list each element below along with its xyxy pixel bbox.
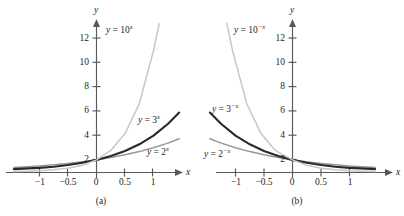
x-axis-arrow-b	[385, 169, 393, 176]
x-axis-label-a: x	[186, 168, 190, 178]
x-tick-label-neg05-b: −0.5	[255, 178, 272, 188]
x-axis-arrow-a	[175, 169, 183, 176]
y-axis-arrow-a	[93, 19, 100, 27]
curve-label-10-pow-negx-base: 10	[248, 25, 258, 35]
y-tick-label-12-b: 12	[276, 34, 286, 44]
y-tick-label-10-a: 10	[80, 58, 90, 68]
y-tick-label-6-b: 6	[280, 106, 285, 116]
curve-label-10-pow-x-op: =	[113, 25, 118, 35]
x-tick-label-1-b: 1	[348, 178, 353, 188]
curve-label-10-pow-x: y = 10x	[106, 26, 133, 36]
curve-label-2-pow-x: y = 2x	[147, 148, 169, 158]
curve-label-10-pow-negx-lhs: y	[234, 25, 238, 35]
y-tick-label-12-a: 12	[80, 34, 90, 44]
y-tick-label-4-a: 4	[84, 131, 89, 141]
caption-a: (a)	[96, 196, 107, 206]
x-axis-label-b: x	[396, 168, 400, 178]
y-axis-label-a: y	[94, 6, 98, 16]
y-tick-label-2-a: 2	[84, 155, 89, 165]
curve-10-pow-negx	[227, 24, 375, 172]
curve-label-2-pow-negx-lhs: y	[204, 149, 208, 159]
y-axis-arrow-b	[289, 19, 296, 27]
x-tick-label-neg1-b: −1	[231, 178, 241, 188]
curve-10-pow-x	[14, 24, 159, 172]
curve-label-2-pow-negx-exp: −x	[223, 147, 230, 154]
curve-label-10-pow-x-base: 10	[120, 25, 130, 35]
curve-label-3-pow-x: y = 3x	[138, 116, 160, 126]
y-tick-label-6-a: 6	[84, 106, 89, 116]
curve-label-3-pow-x-exp: x	[157, 113, 160, 120]
curve-label-3-pow-negx-exp: −x	[231, 102, 238, 109]
curve-label-10-pow-x-exp: x	[130, 23, 133, 30]
y-tick-label-4-b: 4	[280, 131, 285, 141]
curve-label-3-pow-x-lhs: y	[138, 115, 142, 125]
curve-label-10-pow-negx: y = 10−x	[234, 26, 265, 36]
x-tick-label-05-b: 0.5	[315, 178, 327, 188]
curve-label-3-pow-negx: y = 3−x	[212, 105, 238, 115]
curve-label-10-pow-negx-exp: −x	[258, 23, 265, 30]
panel-b: y x −1 −0.5 0 0.5 1 2 4 6 8 10 12 y = 10…	[202, 0, 404, 216]
x-tick-label-05-a: 0.5	[119, 178, 131, 188]
y-tick-label-10-b: 10	[276, 58, 286, 68]
panel-a-plot	[0, 0, 202, 216]
curve-label-3-pow-x-op: =	[145, 115, 150, 125]
x-tick-label-1-a: 1	[151, 178, 156, 188]
x-tick-label-0-a: 0	[94, 178, 99, 188]
x-tick-label-neg1-a: −1	[35, 178, 45, 188]
y-tick-label-8-b: 8	[280, 82, 285, 92]
curve-label-10-pow-negx-op: =	[241, 25, 246, 35]
curve-label-3-pow-negx-lhs: y	[212, 104, 216, 114]
y-axis-label-b: y	[290, 6, 294, 16]
curve-label-2-pow-negx-op: =	[211, 149, 216, 159]
curve-label-10-pow-x-lhs: y	[106, 25, 110, 35]
curve-label-3-pow-negx-op: =	[219, 104, 224, 114]
y-tick-label-8-a: 8	[84, 82, 89, 92]
x-tick-label-0-b: 0	[290, 178, 295, 188]
caption-b: (b)	[291, 196, 302, 206]
curve-label-2-pow-x-op: =	[154, 147, 159, 157]
curve-label-2-pow-x-lhs: y	[147, 147, 151, 157]
figure-exponential-graphs: y x −1 −0.5 0 0.5 1 2 4 6 8 10 12 y = 10…	[0, 0, 404, 216]
y-tick-label-2-b: 2	[280, 155, 285, 165]
x-tick-label-neg05-a: −0.5	[59, 178, 76, 188]
panel-a: y x −1 −0.5 0 0.5 1 2 4 6 8 10 12 y = 10…	[0, 0, 202, 216]
curve-label-2-pow-negx: y = 2−x	[204, 150, 230, 160]
curve-label-2-pow-x-exp: x	[166, 145, 169, 152]
